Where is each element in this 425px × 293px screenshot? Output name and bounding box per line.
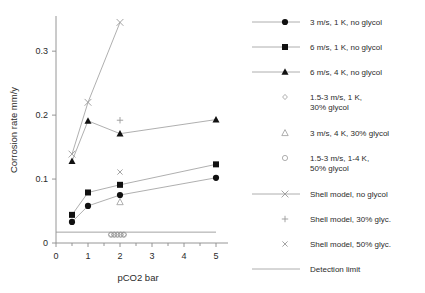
data-point — [85, 189, 91, 195]
legend-label: Shell model, 50% glyc. — [310, 240, 391, 249]
legend-label: 3 m/s, 1 K, no glycol — [310, 18, 382, 27]
legend-label: 1.5-3 m/s, 1 K, — [310, 93, 362, 102]
x-axis-title: pCO2 bar — [117, 272, 158, 283]
chart-canvas: 00.10.20.3012345pCO2 barCorrosion rate m… — [0, 0, 425, 293]
y-tick-label: 0.3 — [35, 46, 48, 56]
data-point — [213, 161, 219, 167]
x-tick-label: 3 — [149, 251, 154, 261]
x-tick-label: 4 — [181, 251, 186, 261]
legend-label: 6 m/s, 4 K, no glycol — [310, 68, 382, 77]
legend-label: Shell model, no glycol — [310, 190, 388, 199]
legend-label: Shell model, 30% glyc. — [310, 215, 391, 224]
data-point — [69, 212, 75, 218]
legend-label-cont: 30% glycol — [310, 103, 349, 112]
legend-label: 1.5-3 m/s, 1-4 K, — [310, 154, 369, 163]
legend-marker-filled-circle-icon — [282, 19, 288, 25]
data-point — [213, 175, 219, 181]
legend-label: 6 m/s, 1 K, no glycol — [310, 43, 382, 52]
legend-label-cont: 50% glycol — [310, 164, 349, 173]
data-point — [117, 192, 123, 198]
legend-label: 3 m/s, 4 K, 30% glycol — [310, 129, 389, 138]
y-axis-title: Corrosion rate mm/y — [8, 87, 19, 173]
corrosion-rate-chart: 00.10.20.3012345pCO2 barCorrosion rate m… — [0, 0, 425, 293]
y-tick-label: 0.1 — [35, 174, 48, 184]
data-point — [117, 182, 123, 188]
data-point — [85, 203, 91, 209]
legend-marker-filled-square-icon — [282, 44, 288, 50]
data-point — [69, 219, 75, 225]
x-tick-label: 5 — [213, 251, 218, 261]
y-tick-label: 0 — [43, 238, 48, 248]
y-tick-label: 0.2 — [35, 110, 48, 120]
x-tick-label: 2 — [117, 251, 122, 261]
legend-label: Detection limit — [310, 265, 361, 274]
x-tick-label: 0 — [53, 251, 58, 261]
x-tick-label: 1 — [85, 251, 90, 261]
